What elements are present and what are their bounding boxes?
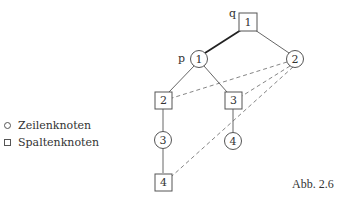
svg-text:2: 2 [292,53,299,66]
tree-graph: 1 1 2 2 3 3 4 4 q p [0,0,344,198]
column-node-2: 2 [155,92,172,109]
edge-sq1-c2 [255,30,289,53]
edge-c1-sq3 [204,66,227,92]
row-node-1: 1 [191,51,208,68]
svg-text:3: 3 [230,94,237,107]
row-node-3: 3 [155,132,172,149]
legend-row-nodes: Zeilenknoten [4,119,91,132]
edge-sq1-c1 [205,30,241,53]
diagram-canvas: 1 1 2 2 3 3 4 4 q p [0,0,344,198]
svg-text:4: 4 [160,176,167,189]
svg-text:1: 1 [245,16,252,29]
svg-text:4: 4 [230,135,237,148]
dashed-edge-c2-sq4 [172,67,293,176]
legend-column-nodes-label: Spaltenknoten [18,136,99,149]
svg-text:2: 2 [160,94,167,107]
figure-caption: Abb. 2.6 [292,177,334,192]
row-node-2: 2 [287,51,304,68]
column-node-1: 1 [239,13,257,31]
label-q: q [229,7,236,20]
row-node-4: 4 [225,133,242,150]
svg-text:3: 3 [160,134,167,147]
legend-row-nodes-label: Zeilenknoten [18,119,91,132]
svg-text:1: 1 [196,53,203,66]
column-node-3: 3 [225,92,242,109]
legend-column-nodes: Spaltenknoten [4,136,99,149]
label-p: p [178,52,185,65]
column-node-4: 4 [155,174,172,191]
edge-c1-sq2 [169,66,194,92]
circle-icon [4,122,11,129]
square-icon [4,139,11,146]
